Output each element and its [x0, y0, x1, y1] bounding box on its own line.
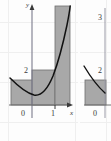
figure-panel-left: 0 1 2 y x	[0, 0, 78, 141]
plot-right	[80, 0, 111, 141]
figure-pair: 0 1 2 y x 2 3 0	[0, 0, 111, 141]
shaded-region-middle	[32, 70, 55, 105]
plot-left	[0, 0, 78, 141]
grid-lines-right	[80, 0, 111, 141]
figure-panel-right: 2 3 0	[80, 0, 111, 141]
